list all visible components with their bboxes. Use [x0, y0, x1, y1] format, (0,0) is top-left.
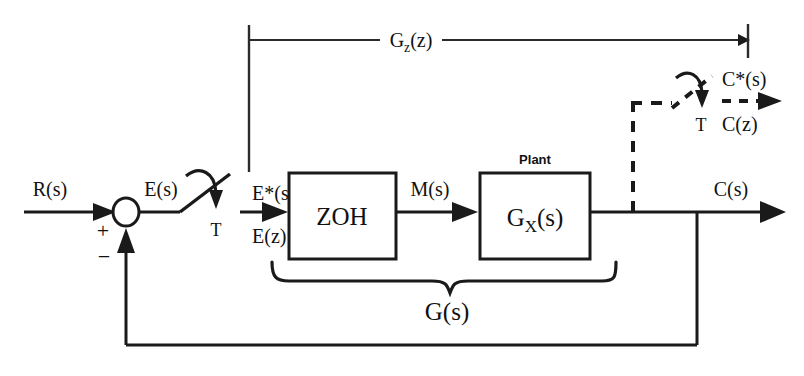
control-system-diagram: Gz(z) R(s) + − E(s) T — [0, 0, 804, 376]
sampled-output-s-label: C*(s) — [722, 68, 766, 91]
output-wire-group: C(s) — [590, 178, 786, 223]
gz-span-group: Gz(z) — [249, 24, 750, 172]
summing-junction-minus-sign: − — [98, 244, 110, 269]
output-label: C(s) — [714, 178, 748, 201]
sampled-output-wire-group: C*(s) C(z) — [722, 68, 782, 136]
zoh-block-label: ZOH — [316, 203, 367, 230]
sampled-error-z-label: E(z) — [252, 225, 286, 248]
sampled-output-z-label: C(z) — [722, 113, 758, 136]
sampled-error-arrowhead — [262, 202, 288, 222]
sampled-error-wire-group: E*(s) E(z) — [240, 182, 295, 248]
error-wire-group: E(s) — [139, 178, 180, 212]
gs-brace-label: G(s) — [425, 298, 469, 326]
summing-junction-plus-sign: + — [97, 218, 109, 243]
output-sampler: T — [672, 73, 712, 135]
output-sampler-period-label: T — [696, 115, 707, 135]
input-sampler-blade — [180, 174, 230, 212]
control-effort-arrowhead — [452, 202, 478, 222]
error-label: E(s) — [144, 178, 177, 201]
output-sampler-branch-group — [631, 103, 672, 212]
plant-block-caption: Plant — [519, 152, 551, 167]
control-effort-wire-group: M(s) — [396, 178, 478, 222]
output-sampler-hook-arrowhead — [695, 90, 709, 108]
plant-block-rect — [480, 173, 590, 259]
output-arrowhead — [760, 201, 786, 223]
zoh-block: ZOH — [289, 173, 396, 259]
reference-input-label: R(s) — [33, 178, 67, 201]
block-diagram-canvas: Gz(z) R(s) + − E(s) T — [0, 0, 804, 376]
summing-junction-circle — [113, 198, 139, 226]
control-effort-label: M(s) — [411, 178, 450, 201]
reference-input-wire-group: R(s) — [24, 178, 116, 221]
sampled-output-arrowhead — [758, 92, 782, 110]
input-sampler-hook-arrowhead — [209, 190, 223, 209]
input-sampler-period-label: T — [211, 220, 222, 240]
gs-brace-path — [272, 262, 616, 293]
feedback-arrowhead — [117, 228, 135, 253]
gz-span-label: Gz(z) — [390, 29, 433, 55]
plant-block: Plant GX(s) — [480, 152, 590, 259]
gs-brace-group: G(s) — [272, 262, 616, 326]
input-sampler: T — [180, 171, 230, 240]
